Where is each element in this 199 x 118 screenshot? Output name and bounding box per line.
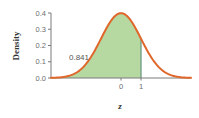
y-tick-label: 0.1 — [36, 57, 46, 66]
x-tick-label: 1 — [139, 82, 143, 91]
y-axis-label: Density — [11, 31, 21, 60]
x-axis-label: z — [117, 101, 122, 111]
y-tick-label: 0.3 — [36, 25, 46, 34]
y-tick-label: 0.4 — [36, 9, 46, 18]
x-tick-label: 0 — [119, 82, 123, 91]
y-tick-label: 0.2 — [36, 41, 46, 50]
shaded-area-below-z1 — [51, 13, 141, 78]
y-tick-label: 0.0 — [36, 74, 46, 83]
shaded-area-annotation: 0.841 — [69, 53, 90, 62]
normal-density-chart: 0.00.10.20.30.401 0.841 Density z — [0, 0, 199, 118]
